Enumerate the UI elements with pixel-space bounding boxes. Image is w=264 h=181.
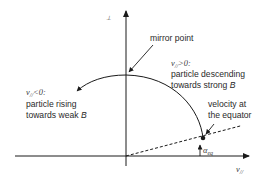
- equator-label-line2: the equator: [208, 110, 252, 120]
- equator-pointer: [206, 124, 214, 134]
- left-description-line1: particle rising: [26, 99, 77, 109]
- equator-pitch-angle-line: [126, 126, 242, 157]
- right-description-line2: towards strong B: [171, 80, 236, 90]
- mirror-point-label: mirror point: [150, 33, 194, 43]
- equator-label-line1: velocity at: [208, 99, 247, 109]
- y-axis-label: ⊥: [106, 15, 111, 21]
- left-description-line2: towards weak B: [26, 110, 87, 120]
- right-description-line1: particle descending: [171, 69, 245, 79]
- x-axis-label: v//: [236, 165, 244, 175]
- equator-velocity-dot: [201, 136, 206, 141]
- alpha-eq-label: αeq: [203, 146, 213, 156]
- mirror-point-pointer: [129, 45, 153, 72]
- left-condition-label: v//<0:: [26, 88, 46, 98]
- pitch-angle-diagram: ⊥ v v// mirror point v//>0: particle des…: [0, 0, 264, 181]
- right-condition-label: v//>0:: [171, 59, 191, 69]
